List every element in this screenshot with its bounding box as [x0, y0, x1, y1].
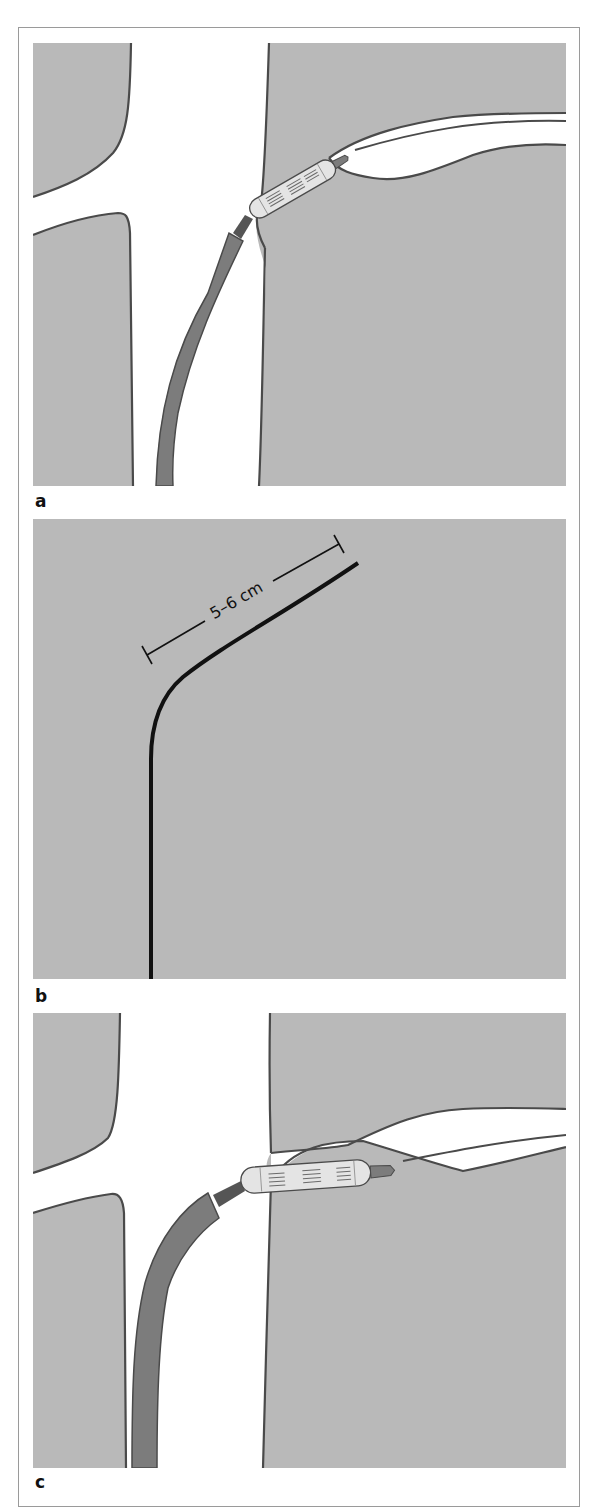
panel-label-b: b — [35, 988, 47, 1005]
tissue-background — [33, 43, 566, 486]
panel-b: 5–6 cm — [33, 519, 566, 979]
panel-b-illustration: 5–6 cm — [33, 519, 566, 979]
panel-a — [33, 43, 566, 486]
panel-label-c: c — [35, 1474, 45, 1491]
panel-a-illustration — [33, 43, 566, 486]
panel-c-illustration — [33, 1013, 566, 1468]
tissue-background — [33, 519, 566, 979]
panel-label-a: a — [35, 493, 46, 510]
tissue-background — [33, 1013, 566, 1468]
panel-c — [33, 1013, 566, 1468]
